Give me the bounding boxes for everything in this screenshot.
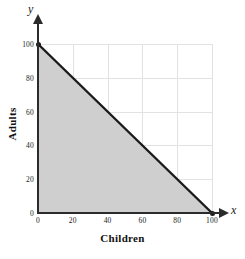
x-axis-tick-label: 60	[130, 216, 154, 225]
y-axis-arrowhead-icon	[33, 14, 43, 24]
plot-area	[38, 44, 212, 213]
y-axis-tick-label: 20	[0, 175, 34, 184]
x-axis-tick-label: 80	[165, 216, 189, 225]
y-axis-line	[37, 22, 39, 214]
boundary-line	[38, 44, 212, 213]
x-axis-tick-label: 100	[200, 216, 224, 225]
y-axis-tick-label: 100	[0, 40, 34, 49]
x-axis-tick-label: 20	[61, 216, 85, 225]
x-axis-line	[37, 212, 221, 214]
x-axis-tick-labels: 020406080100	[0, 216, 245, 230]
x-axis-tick-label: 0	[26, 216, 50, 225]
gridline-vertical	[212, 44, 213, 213]
y-axis-title: Adults	[6, 84, 18, 164]
y-axis-tick-label: 80	[0, 74, 34, 83]
x-axis-tick-label: 40	[96, 216, 120, 225]
x-axis-title: Children	[0, 232, 245, 244]
chart-figure: y x 020406080100 020406080100 Children A…	[0, 0, 245, 259]
